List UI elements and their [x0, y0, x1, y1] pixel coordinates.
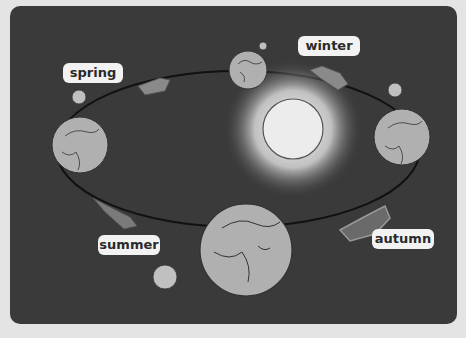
orbit-diagram [10, 6, 457, 324]
label-winter: winter [298, 36, 360, 56]
earth-left-icon [52, 117, 108, 173]
earth-top-icon [229, 51, 267, 89]
earth-right-icon [374, 109, 430, 165]
moon-left-icon [72, 90, 86, 104]
label-summer: summer [98, 235, 160, 255]
moon-bottom-icon [153, 265, 177, 289]
earth-bottom-icon [200, 204, 292, 296]
diagram-panel: spring winter summer autumn [10, 6, 457, 324]
arrow-spring-icon [138, 78, 170, 95]
moon-top-icon [259, 42, 267, 50]
sun-icon [263, 99, 323, 159]
label-spring: spring [63, 63, 123, 83]
label-autumn: autumn [372, 229, 434, 249]
moon-right-icon [388, 83, 402, 97]
arrow-summer-icon [93, 198, 137, 229]
